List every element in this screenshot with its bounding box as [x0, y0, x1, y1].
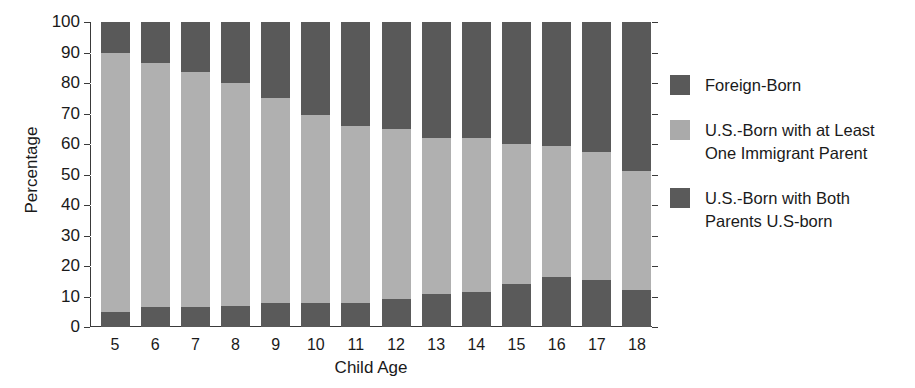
bar-segment[interactable]	[301, 22, 330, 115]
bar-segment[interactable]	[341, 126, 370, 303]
bar-segment[interactable]	[141, 22, 170, 63]
bar-stack[interactable]: 15	[502, 22, 531, 327]
bar-stack[interactable]: 18	[622, 22, 651, 327]
x-tick-label: 14	[462, 336, 491, 354]
x-tick-label: 5	[101, 336, 130, 354]
bar-segment[interactable]	[422, 294, 451, 327]
x-tick-label: 7	[181, 336, 210, 354]
bar-segment[interactable]	[622, 171, 651, 290]
y-tick-mark-right	[652, 114, 658, 115]
legend-entry[interactable]: Foreign-Born	[670, 74, 910, 97]
bar-stack[interactable]: 14	[462, 22, 491, 327]
y-tick-mark-right	[652, 53, 658, 54]
chart-legend: Foreign-BornU.S.-Born with at Least One …	[670, 74, 910, 255]
bar-segment[interactable]	[502, 144, 531, 284]
y-tick-mark	[84, 327, 90, 328]
y-tick-label: 90	[61, 43, 80, 63]
x-tick-label: 11	[341, 336, 370, 354]
bar-segment[interactable]	[582, 152, 611, 280]
bar-stack[interactable]: 13	[422, 22, 451, 327]
x-tick-label: 13	[422, 336, 451, 354]
y-tick-mark-right	[652, 144, 658, 145]
y-tick-mark	[84, 266, 90, 267]
bar-stack[interactable]: 9	[261, 22, 290, 327]
bar-segment[interactable]	[101, 22, 130, 53]
bar-segment[interactable]	[181, 72, 210, 307]
bar-segment[interactable]	[261, 303, 290, 327]
bar-segment[interactable]	[462, 138, 491, 292]
x-tick-label: 6	[141, 336, 170, 354]
bar-segment[interactable]	[582, 280, 611, 327]
bar-segment[interactable]	[502, 284, 531, 327]
bar-segment[interactable]	[582, 22, 611, 152]
y-tick-mark	[84, 205, 90, 206]
x-axis-title: Child Age	[90, 358, 652, 378]
legend-entry[interactable]: U.S.-Born with Both Parents U.S-born	[670, 187, 910, 233]
y-tick-mark-right	[652, 83, 658, 84]
y-tick-mark	[84, 53, 90, 54]
bar-segment[interactable]	[462, 292, 491, 327]
y-axis-title: Percentage	[22, 5, 46, 335]
bar-stack[interactable]: 7	[181, 22, 210, 327]
x-tick-label: 8	[221, 336, 250, 354]
legend-swatch-icon	[670, 120, 690, 140]
bar-stack[interactable]: 12	[382, 22, 411, 327]
bar-segment[interactable]	[422, 138, 451, 294]
bar-segment[interactable]	[422, 22, 451, 138]
bar-group: 56789101112131415161718	[90, 22, 652, 327]
bar-segment[interactable]	[382, 22, 411, 129]
bar-segment[interactable]	[261, 98, 290, 303]
bar-segment[interactable]	[261, 22, 290, 98]
bar-segment[interactable]	[622, 22, 651, 171]
bar-segment[interactable]	[502, 22, 531, 144]
y-tick-mark-right	[652, 22, 658, 23]
bar-stack[interactable]: 11	[341, 22, 370, 327]
bar-segment[interactable]	[101, 312, 130, 327]
bar-segment[interactable]	[542, 146, 571, 278]
bar-segment[interactable]	[382, 129, 411, 299]
bar-stack[interactable]: 8	[221, 22, 250, 327]
bar-segment[interactable]	[301, 303, 330, 327]
x-tick-label: 12	[382, 336, 411, 354]
legend-swatch-icon	[670, 75, 690, 95]
x-tick-label: 9	[261, 336, 290, 354]
bar-stack[interactable]: 16	[542, 22, 571, 327]
y-tick-mark	[84, 144, 90, 145]
y-tick-label: 20	[61, 256, 80, 276]
bar-segment[interactable]	[221, 22, 250, 83]
x-tick-label: 17	[582, 336, 611, 354]
y-tick-label: 10	[61, 287, 80, 307]
legend-entry[interactable]: U.S.-Born with at Least One Immigrant Pa…	[670, 119, 910, 165]
y-tick-label: 60	[61, 134, 80, 154]
bar-stack[interactable]: 6	[141, 22, 170, 327]
bar-segment[interactable]	[141, 63, 170, 307]
legend-label: U.S.-Born with Both Parents U.S-born	[705, 187, 850, 233]
legend-label: U.S.-Born with at Least One Immigrant Pa…	[705, 119, 875, 165]
bar-segment[interactable]	[382, 299, 411, 327]
bar-stack[interactable]: 10	[301, 22, 330, 327]
x-tick-label: 16	[542, 336, 571, 354]
bar-segment[interactable]	[301, 115, 330, 303]
bar-segment[interactable]	[141, 307, 170, 327]
y-tick-mark-right	[652, 205, 658, 206]
bar-segment[interactable]	[181, 22, 210, 72]
bar-segment[interactable]	[341, 22, 370, 126]
bar-segment[interactable]	[221, 83, 250, 306]
x-tick-label: 15	[502, 336, 531, 354]
y-tick-mark-right	[652, 266, 658, 267]
bar-segment[interactable]	[462, 22, 491, 138]
bar-segment[interactable]	[341, 303, 370, 327]
bar-segment[interactable]	[181, 307, 210, 327]
bar-segment[interactable]	[101, 53, 130, 312]
y-tick-label: 80	[61, 73, 80, 93]
bar-stack[interactable]: 5	[101, 22, 130, 327]
y-tick-mark-right	[652, 327, 658, 328]
bar-segment[interactable]	[622, 290, 651, 327]
bar-stack[interactable]: 17	[582, 22, 611, 327]
bar-segment[interactable]	[542, 22, 571, 146]
y-tick-label: 100	[52, 12, 80, 32]
x-tick-label: 18	[622, 336, 651, 354]
y-tick-mark	[84, 175, 90, 176]
bar-segment[interactable]	[542, 277, 571, 327]
bar-segment[interactable]	[221, 306, 250, 327]
